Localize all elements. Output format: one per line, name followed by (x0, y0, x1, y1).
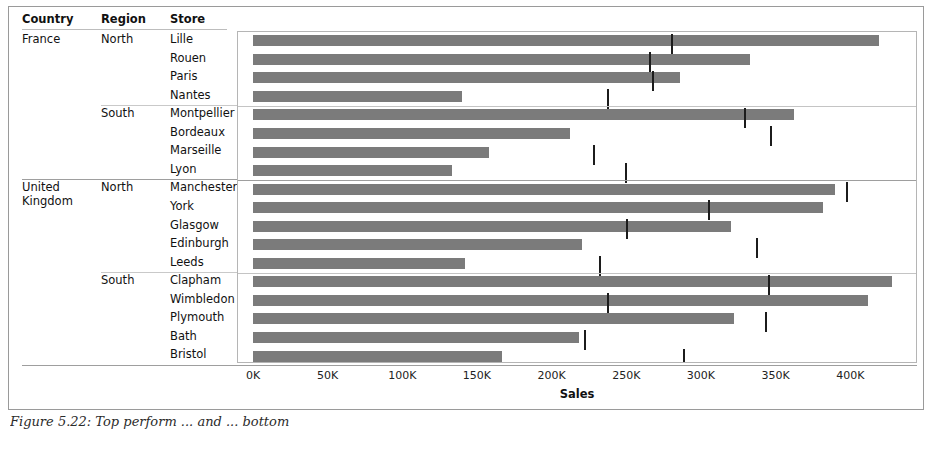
cell-store: Paris (170, 70, 242, 83)
sales-bar[interactable] (253, 313, 734, 324)
cell-store: Plymouth (170, 311, 242, 324)
figure-caption: Figure 5.22: Top perform ... and ... bot… (10, 414, 710, 429)
chart-plot-area (237, 31, 917, 363)
sales-bar[interactable] (253, 91, 462, 102)
cell-store: Montpellier (170, 107, 242, 120)
sales-bar[interactable] (253, 109, 794, 120)
target-reference-line[interactable] (607, 293, 609, 313)
target-reference-line[interactable] (683, 349, 685, 363)
target-reference-line[interactable] (652, 71, 654, 91)
x-axis-tick-label: 400K (836, 369, 864, 382)
cell-store: Bath (170, 330, 242, 343)
target-reference-line[interactable] (708, 200, 710, 220)
target-reference-line[interactable] (744, 108, 746, 128)
x-axis-title: Sales (237, 387, 917, 401)
x-axis-tick-label: 50K (317, 369, 338, 382)
cell-store: Rouen (170, 52, 242, 65)
target-reference-line[interactable] (626, 219, 628, 239)
sales-bar[interactable] (253, 221, 731, 232)
x-axis-tick-label: 150K (463, 369, 491, 382)
cell-store: Leeds (170, 256, 242, 269)
sales-bar[interactable] (253, 351, 502, 362)
x-axis-tick-label: 350K (762, 369, 790, 382)
cell-store: Edinburgh (170, 237, 242, 250)
cell-store: Clapham (170, 274, 242, 287)
cell-store: York (170, 200, 242, 213)
cell-store: Bordeaux (170, 126, 242, 139)
sales-bar[interactable] (253, 276, 892, 287)
sales-bar[interactable] (253, 295, 868, 306)
cell-store: Bristol (170, 348, 242, 361)
column-header-country: Country (22, 12, 73, 26)
sales-bar[interactable] (253, 35, 879, 46)
target-reference-line[interactable] (770, 126, 772, 146)
cell-store: Lyon (170, 163, 242, 176)
sales-bar[interactable] (253, 165, 452, 176)
cell-region: South (101, 107, 171, 120)
cell-store: Lille (170, 33, 242, 46)
cell-region: North (101, 181, 171, 194)
target-reference-line[interactable] (768, 275, 770, 295)
cell-region: North (101, 33, 171, 46)
cell-country: France (22, 33, 94, 46)
chart-region-separator (238, 106, 916, 107)
sales-bar[interactable] (253, 184, 835, 195)
x-axis: Sales 0K50K100K150K200K250K300K350K400K (237, 363, 917, 409)
cell-region: South (101, 274, 171, 287)
target-reference-line[interactable] (584, 330, 586, 350)
sales-bar[interactable] (253, 202, 823, 213)
sales-bar[interactable] (253, 54, 750, 65)
sales-bar[interactable] (253, 147, 489, 158)
chart-country-separator (238, 180, 916, 181)
sales-bar[interactable] (253, 128, 570, 139)
target-reference-line[interactable] (649, 52, 651, 72)
target-reference-line[interactable] (765, 312, 767, 332)
sales-bar[interactable] (253, 72, 680, 83)
sales-bar[interactable] (253, 258, 465, 269)
table-header-row: Country Region Store (9, 7, 923, 31)
target-reference-line[interactable] (846, 182, 848, 202)
figure-frame: Country Region Store FranceNorthLilleRou… (8, 6, 924, 410)
cell-store: Marseille (170, 144, 242, 157)
cell-store: Manchester (170, 181, 242, 194)
x-axis-tick-label: 250K (612, 369, 640, 382)
sales-bar[interactable] (253, 332, 579, 343)
cell-store: Glasgow (170, 219, 242, 232)
cell-store: Wimbledon (170, 293, 242, 306)
target-reference-line[interactable] (756, 238, 758, 258)
x-axis-tick-label: 300K (687, 369, 715, 382)
column-header-store: Store (170, 12, 205, 26)
column-header-region: Region (101, 12, 146, 26)
x-axis-tick-label: 100K (388, 369, 416, 382)
x-axis-tick-label: 200K (538, 369, 566, 382)
target-reference-line[interactable] (671, 34, 673, 54)
x-axis-tick-label: 0K (246, 369, 260, 382)
header-underline-left (22, 29, 227, 30)
cell-store: Nantes (170, 89, 242, 102)
sales-bar[interactable] (253, 239, 582, 250)
target-reference-line[interactable] (593, 145, 595, 165)
chart-region-separator (238, 273, 916, 274)
